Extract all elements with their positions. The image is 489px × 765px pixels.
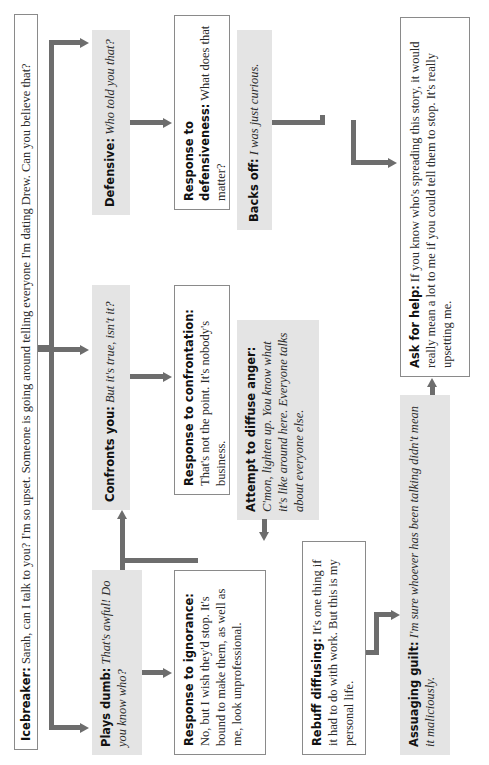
connector-ignorance-to-confronts-h [120,517,125,563]
connector-backs-off-h [320,115,325,125]
connector-to-plays-dumb [49,725,81,730]
ask-for-help-label: Ask for help: [408,285,422,368]
plays-dumb-box: Plays dumb: That's awful! Do you know wh… [92,570,142,755]
arrow-head-plays-dumb [80,723,89,733]
icebreaker-label: Icebreaker: [19,667,33,741]
attempt-diffuse-text: C'mon, lighten up. You know what it's li… [260,333,306,512]
connector-defensive-to-response [130,120,164,125]
arrow-head-help [427,378,437,387]
response-confrontation-label: Response to confrontation: [182,309,196,486]
connector-attempt-to-rebuff [262,519,267,533]
response-confrontation-box: Response to confrontation: That's not th… [174,285,230,495]
arrow-head-ask-help [388,158,397,168]
connector-to-defensive [49,40,81,45]
plays-dumb-label: Plays dumb: [99,668,113,747]
response-defensiveness-label: Response to defensiveness: [182,104,212,201]
defensive-label: Defensive: [103,138,117,207]
response-ignorance-box: Response to ignorance: No, but I wish th… [174,570,266,755]
connector-backs-off-down [272,120,324,125]
defensive-text: Who told you that? [103,39,117,138]
confronts-you-label: Confronts you: [103,406,117,502]
response-ignorance-label: Response to ignorance: [182,593,196,746]
backs-off-label: Backs off: [247,158,261,222]
connector-to-confronts [49,347,81,352]
arrow-head-confronts [80,345,89,355]
connector-plays-dumb-to-response [142,670,164,675]
response-ignorance-text: No, but I wish they'd stop. It's bound t… [198,589,244,746]
confronts-you-text: But it's true, isn't it? [103,302,117,407]
arrow-head-assuaging [391,610,400,620]
assuaging-guilt-box: Assuaging guilt: I'm sure whoever has be… [400,395,450,755]
rebuff-label: Rebuff diffusing: [310,638,324,746]
connector-backs-off-h2 [351,120,356,165]
response-confrontation-text: That's not the point. It's nobody's busi… [198,321,228,486]
assuaging-guilt-label: Assuaging guilt: [407,641,421,747]
rebuff-box: Rebuff diffusing: It's one thing if it h… [302,541,366,755]
confronts-you-box: Confronts you: But it's true, isn't it? [92,285,130,510]
connector-rebuff-elbow [374,613,379,655]
flowchart-stage: Icebreaker: Sarah, can I talk to you? I'… [0,0,489,765]
connector-trunk-horizontal [49,40,54,730]
connector-ignorance-to-confronts-v [120,558,198,563]
response-defensiveness-box: Response to defensiveness: What does tha… [174,15,230,210]
arrow-head-defensive [80,38,89,48]
backs-off-box: Backs off: I was just curious. [237,30,272,230]
connector-backs-off-v2 [351,160,391,165]
arrow-head-defensiveness [163,118,172,128]
icebreaker-text: Sarah, can I talk to you? I'm so upset. … [19,63,33,667]
attempt-diffuse-label: Attempt to diffuse anger: [244,347,258,512]
icebreaker-box: Icebreaker: Sarah, can I talk to you? I'… [14,14,38,750]
attempt-diffuse-box: Attempt to diffuse anger: C'mon, lighten… [237,320,319,520]
connector-confronts-to-response [130,374,164,379]
ask-for-help-box: Ask for help: If you know who's spreadin… [400,17,470,377]
defensive-box: Defensive: Who told you that? [92,30,130,215]
arrow-head-ignorance [163,668,172,678]
arrow-head-rebuff [259,532,269,541]
backs-off-text: I was just curious. [247,64,261,159]
arrow-head-confrontation [163,372,172,382]
